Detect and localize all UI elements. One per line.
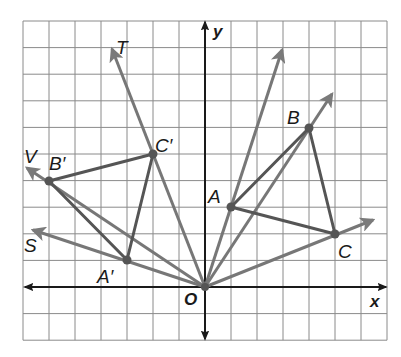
- point-A-prime: [123, 256, 132, 265]
- point-B-prime: [45, 177, 54, 186]
- point-C: [331, 230, 340, 239]
- label-S: S: [24, 235, 37, 256]
- label-B: B: [287, 107, 300, 128]
- label-A-prime: A′: [96, 266, 115, 287]
- rays: [27, 49, 373, 287]
- label-B-prime: B′: [49, 153, 67, 174]
- label-V: V: [24, 146, 39, 167]
- rotation-diagram: T V S A B C A′ B′ C′ O x y: [0, 0, 401, 357]
- label-y-axis: y: [212, 22, 224, 41]
- label-C-prime: C′: [155, 135, 174, 156]
- ray-OB: [205, 94, 332, 287]
- label-T: T: [116, 37, 129, 58]
- label-x-axis: x: [369, 292, 381, 311]
- label-origin: O: [184, 290, 197, 309]
- ray-OT: [112, 49, 205, 287]
- labels: T V S A B C A′ B′ C′ O x y: [24, 22, 381, 311]
- label-C: C: [338, 241, 352, 262]
- point-A: [227, 203, 236, 212]
- label-A: A: [207, 186, 221, 207]
- point-B: [305, 124, 314, 133]
- point-origin: [201, 283, 209, 291]
